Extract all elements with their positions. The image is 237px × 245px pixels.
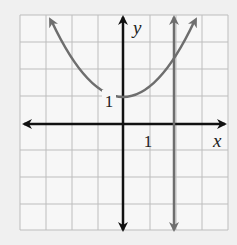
y-axis-label: y bbox=[131, 17, 142, 38]
x-tick-label: 1 bbox=[144, 132, 153, 151]
x-axis-label: x bbox=[212, 130, 222, 151]
y-tick-label: 1 bbox=[105, 92, 114, 111]
graph: 1 1 y x bbox=[0, 0, 237, 245]
